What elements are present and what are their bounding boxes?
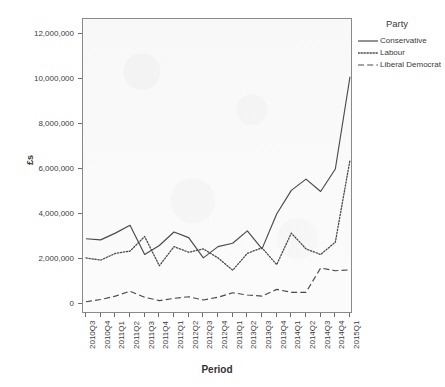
legend: Party ConservativeLabourLiberal Democrat [358,18,444,71]
x-tick-label: 2012Q1 [176,321,185,349]
series-line-conservative [86,77,350,258]
x-tick-label: 2015Q1 [352,321,361,349]
legend-item-labour[interactable]: Labour [358,47,444,58]
y-tick-label: 12,000,000 [2,29,74,38]
x-tick-mark [217,313,218,317]
x-tick-label: 2011Q1 [117,321,126,349]
legend-swatch-dashed-icon [358,61,378,69]
x-tick-label: 2014Q1 [293,321,302,349]
x-tick-label: 2013Q4 [279,321,288,349]
legend-label: Conservative [380,36,427,45]
x-tick-label: 2014Q2 [308,321,317,349]
x-tick-mark [320,313,321,317]
legend-label: Labour [380,48,405,57]
x-tick-mark [173,313,174,317]
x-tick-label: 2014Q4 [337,321,346,349]
x-tick-label: 2012Q3 [205,321,214,349]
x-tick-label: 2012Q2 [191,321,200,349]
x-tick-label: 2010Q4 [103,321,112,349]
x-tick-mark [85,313,86,317]
x-tick-mark [246,313,247,317]
legend-item-list: ConservativeLabourLiberal Democrat [358,35,444,70]
x-tick-mark [305,313,306,317]
legend-swatch-dotted-icon [358,49,378,57]
x-tick-mark [114,313,115,317]
y-tick-label: 10,000,000 [2,74,74,83]
x-tick-mark [290,313,291,317]
x-tick-mark [129,313,130,317]
x-tick-mark [232,313,233,317]
x-tick-mark [334,313,335,317]
x-tick-mark [202,313,203,317]
x-tick-mark [261,313,262,317]
x-tick-mark [100,313,101,317]
legend-label: Liberal Democrat [380,60,441,69]
legend-item-conservative[interactable]: Conservative [358,35,444,46]
legend-title: Party [358,18,436,29]
y-tick-label: 8,000,000 [2,119,74,128]
x-tick-mark [349,313,350,317]
x-tick-mark [158,313,159,317]
x-tick-label: 2014Q3 [323,321,332,349]
series-line-labour [86,160,350,270]
legend-item-liberal-democrat[interactable]: Liberal Democrat [358,59,444,70]
x-tick-mark [144,313,145,317]
x-tick-label: 2013Q2 [249,321,258,349]
y-tick-label: 6,000,000 [2,164,74,173]
y-tick-label: 4,000,000 [2,209,74,218]
series-line-liberal-democrat [86,268,350,302]
x-tick-label: 2013Q3 [264,321,273,349]
x-tick-label: 2010Q3 [88,321,97,349]
x-tick-mark [276,313,277,317]
x-tick-label: 2011Q2 [132,321,141,349]
y-tick-label: 0 [2,299,74,308]
x-tick-label: 2013Q1 [235,321,244,349]
x-tick-label: 2011Q4 [161,321,170,349]
line-chart: £s 02,000,0004,000,0006,000,0008,000,000… [0,0,445,387]
legend-swatch-solid-icon [358,37,378,45]
series-lines [83,19,353,314]
y-tick-label: 2,000,000 [2,254,74,263]
x-axis-title: Period [82,364,352,375]
x-tick-mark [188,313,189,317]
plot-area [82,18,352,313]
y-axis-title: £s [25,140,35,180]
x-tick-label: 2012Q4 [220,321,229,349]
x-tick-label: 2011Q3 [147,321,156,349]
